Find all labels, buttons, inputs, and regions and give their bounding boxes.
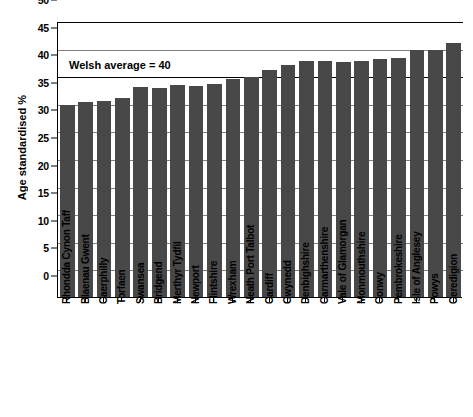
- x-tick-label: Pembrokeshire: [392, 234, 403, 304]
- x-tick-label: Flintshire: [208, 261, 219, 304]
- y-tick-label: 50: [38, 0, 49, 6]
- x-tick-label: Isle of Anglesey: [410, 231, 421, 304]
- x-tick-label: Blaenau Gwent: [79, 234, 90, 304]
- x-slot: Ceredigion: [444, 302, 462, 414]
- x-tick-label: Cardiff: [263, 273, 274, 304]
- bar: [373, 59, 388, 297]
- y-tick-label: 10: [38, 215, 49, 227]
- x-slot: Gwynedd: [278, 302, 296, 414]
- y-tick-label: 35: [38, 77, 49, 89]
- x-tick-label: Powys: [429, 273, 440, 304]
- x-slot: Rhondda Cynon Taff: [57, 302, 75, 414]
- x-tick-label: Denbighshire: [300, 243, 311, 305]
- bar: [262, 70, 277, 297]
- bar-slot: [279, 21, 297, 297]
- y-tick-label: 40: [38, 49, 49, 61]
- x-tick-label: Swansea: [134, 263, 145, 304]
- bar-slot: [371, 21, 389, 297]
- welsh-average-line-label: Welsh average = 40: [66, 59, 174, 71]
- x-slot: Vale of Glamorgan: [333, 302, 351, 414]
- y-tick-label: 15: [38, 187, 49, 199]
- x-tick-label: Gwynedd: [282, 260, 293, 304]
- x-slot: Isle of Anglesey: [407, 302, 425, 414]
- bar-slot: [224, 21, 242, 297]
- x-slot: Powys: [425, 302, 443, 414]
- y-axis: 05101520253035404550: [0, 0, 57, 276]
- bar-chart: Age standardised % 05101520253035404550 …: [0, 0, 473, 417]
- x-tick-label: Vale of Glamorgan: [337, 220, 348, 304]
- x-tick-label: Bridgend: [153, 262, 164, 304]
- x-tick-label: Wrexham: [226, 261, 237, 304]
- y-tick-label: 25: [38, 132, 49, 144]
- x-tick-label: Conwy: [374, 272, 385, 304]
- x-slot: Swansea: [131, 302, 149, 414]
- x-slot: Flintshire: [204, 302, 222, 414]
- x-slot: Wrexham: [223, 302, 241, 414]
- bar: [115, 98, 130, 297]
- x-tick-label: Caerphilly: [98, 258, 109, 304]
- y-tick-label: 0: [43, 270, 49, 282]
- x-slot: Denbighshire: [296, 302, 314, 414]
- bar-slot: [187, 21, 205, 297]
- x-tick-label: Newport: [190, 265, 201, 304]
- y-tick-label: 30: [38, 104, 49, 116]
- x-axis: Rhondda Cynon TaffBlaenau GwentCaerphill…: [57, 302, 462, 414]
- y-tick-mark: [51, 0, 57, 1]
- x-slot: Cardiff: [259, 302, 277, 414]
- x-slot: Neath Port Talbot: [241, 302, 259, 414]
- bar-slot: [260, 21, 278, 297]
- x-slot: Caerphilly: [94, 302, 112, 414]
- x-slot: Torfaen: [112, 302, 130, 414]
- x-slot: Newport: [186, 302, 204, 414]
- x-slot: Conwy: [370, 302, 388, 414]
- x-slot: Merthyr Tydfil: [167, 302, 185, 414]
- x-tick-label: Merthyr Tydfil: [171, 241, 182, 304]
- x-slot: Bridgend: [149, 302, 167, 414]
- y-tick-label: 5: [43, 242, 49, 254]
- x-slot: Blaenau Gwent: [75, 302, 93, 414]
- bar-slot: [426, 21, 444, 297]
- bar-slot: [205, 21, 223, 297]
- x-tick-label: Rhondda Cynon Taff: [61, 210, 72, 304]
- x-tick-label: Carmarthenshire: [318, 227, 329, 304]
- x-slot: Pembrokeshire: [388, 302, 406, 414]
- bar: [428, 50, 443, 297]
- x-slot: Monmouthshire: [352, 302, 370, 414]
- y-tick-label: 45: [38, 22, 49, 34]
- x-tick-label: Ceredigion: [447, 254, 458, 304]
- x-tick-label: Neath Port Talbot: [245, 225, 256, 304]
- x-slot: Carmarthenshire: [315, 302, 333, 414]
- x-tick-label: Monmouthshire: [355, 232, 366, 304]
- y-tick-label: 20: [38, 160, 49, 172]
- x-tick-label: Torfaen: [116, 269, 127, 304]
